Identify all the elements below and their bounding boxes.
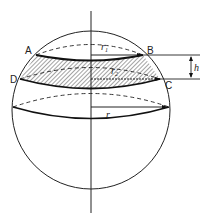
label-point-a: A [25, 45, 32, 56]
label-point-b: B [147, 45, 154, 56]
sphere-zone-diagram: A B C D r1 r2 r h [0, 0, 206, 221]
label-point-c: C [165, 80, 172, 91]
label-h: h [194, 62, 199, 73]
label-r: r [106, 109, 110, 120]
label-point-d: D [10, 74, 17, 85]
h-arrow-bottom [189, 73, 193, 78]
top-circle-back [36, 45, 143, 56]
h-arrow-top [189, 56, 193, 61]
label-r1: r1 [101, 41, 108, 53]
